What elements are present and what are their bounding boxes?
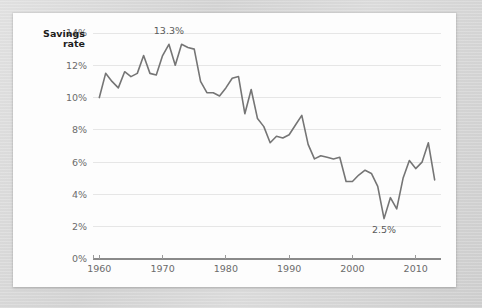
x-axis: [93, 255, 441, 259]
y-tick-label: 10%: [66, 92, 87, 103]
x-tick-label: 2010: [404, 263, 428, 274]
x-tick-label: 1980: [214, 263, 238, 274]
data-point-annotation: 2.5%: [372, 224, 396, 235]
chart-plot-area: 14%12%10%8%6%4%2%0% 19601970198019902000…: [13, 13, 456, 287]
y-tick-label: 4%: [72, 189, 87, 200]
y-tick-label: 6%: [72, 157, 87, 168]
x-axis-tick-labels: 196019701980199020002010: [87, 263, 428, 274]
y-tick-label: 12%: [66, 60, 87, 71]
x-tick-label: 1990: [277, 263, 301, 274]
chart-card: 14%12%10%8%6%4%2%0% 19601970198019902000…: [13, 13, 456, 287]
x-tick-label: 2000: [340, 263, 364, 274]
y-tick-label: 8%: [72, 124, 87, 135]
savings-rate-line: [99, 44, 434, 218]
savings-rate-line-chart: 14%12%10%8%6%4%2%0% 19601970198019902000…: [13, 13, 456, 287]
y-axis-title-line2: rate: [63, 38, 85, 49]
data-point-annotation: 13.3%: [154, 25, 184, 36]
x-tick-label: 1970: [151, 263, 175, 274]
x-tick-label: 1960: [87, 263, 111, 274]
y-tick-label: 0%: [72, 253, 87, 264]
y-axis-tick-labels: 14%12%10%8%6%4%2%0%: [66, 27, 87, 264]
y-tick-label: 2%: [72, 221, 87, 232]
screenshot-root: 14%12%10%8%6%4%2%0% 19601970198019902000…: [0, 0, 482, 308]
